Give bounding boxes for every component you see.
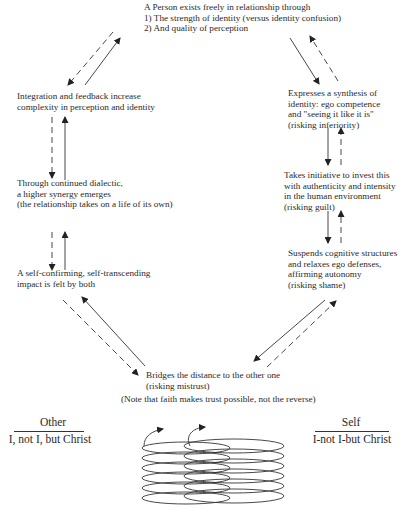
node-left2-line: Through continued dialectic, [17, 178, 173, 189]
pole-other-title: Other [14, 416, 92, 429]
arrow-left1-to-top [85, 38, 120, 85]
pole-self-divider [315, 431, 389, 432]
node-right2: Takes initiative to invest this with aut… [284, 170, 396, 212]
node-right2-line: with authenticity and intensity [284, 181, 396, 192]
node-left1-line: Integration and feedback increase [17, 91, 155, 102]
node-right1: Expresses a synthesis of identity: ego c… [288, 88, 380, 130]
arrow-right3-to-bottom [254, 300, 325, 361]
pole-other-subtitle: I, not I, but Christ [2, 433, 98, 446]
node-right1-line: Expresses a synthesis of [288, 88, 380, 99]
arrow-bottom-to-right3 [267, 301, 336, 367]
arrow-left3-to-bottom [63, 300, 138, 375]
node-top-line: 2) And quality of perception [144, 23, 341, 34]
node-left2: Through continued dialectic, a higher sy… [17, 178, 173, 210]
node-right3-line: affirming autonomy [288, 269, 397, 280]
node-left2-line: a higher synergy emerges [17, 189, 173, 200]
node-left1-line: complexity in perception and identity [17, 102, 155, 113]
pole-self-title: Self [313, 416, 389, 429]
node-bottom: Bridges the distance to the other one (r… [146, 370, 280, 391]
node-right2-line: (risking guilt) [284, 202, 396, 213]
arrow-bottom-to-left3 [82, 297, 145, 366]
pole-other-divider [14, 431, 84, 432]
node-left3-line: impact is felt by both [17, 279, 150, 290]
node-left1: Integration and feedback increase comple… [17, 91, 155, 112]
node-right1-line: and "seeing it like it is" [288, 109, 380, 120]
node-right2-line: in the human environment [284, 191, 396, 202]
node-right3: Suspends cognitive structures and relaxe… [288, 248, 397, 290]
node-right2-line: Takes initiative to invest this [284, 170, 396, 181]
node-top-line: 1) The strength of identity (versus iden… [144, 13, 341, 24]
node-right1-line: (risking inferiority) [288, 120, 380, 131]
node-right1-line: identity: ego competence [288, 99, 380, 110]
node-bottom-note: (Note that faith makes trust possible, n… [121, 394, 316, 405]
node-right3-line: (risking shame) [288, 280, 397, 291]
node-right3-line: and relaxes ego defenses, [288, 259, 397, 270]
spiral-coils-illustration [142, 427, 284, 504]
node-top-line: A Person exists freely in relationship t… [144, 2, 341, 13]
node-left3: A self-confirming, self-transcending imp… [17, 268, 150, 289]
arrow-top-to-right1 [290, 38, 319, 84]
node-left3-line: A self-confirming, self-transcending [17, 268, 150, 279]
pole-self-subtitle: I-not I-but Christ [305, 433, 399, 446]
node-left2-line: (the relationship takes on a life of its… [17, 199, 173, 210]
arrow-right1-to-top [310, 36, 338, 81]
node-bottom-line: Bridges the distance to the other one [146, 370, 280, 381]
node-right3-line: Suspends cognitive structures [288, 248, 397, 259]
node-bottom-line: (risking mistrust) [146, 381, 280, 392]
node-top: A Person exists freely in relationship t… [144, 2, 341, 34]
